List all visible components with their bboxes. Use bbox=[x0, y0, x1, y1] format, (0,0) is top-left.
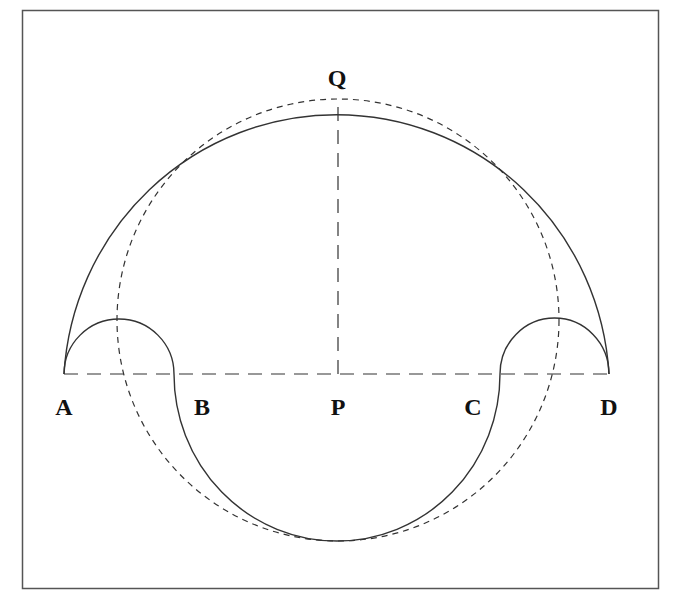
label-C: C bbox=[464, 394, 481, 420]
frame-border bbox=[23, 11, 659, 589]
label-D: D bbox=[600, 394, 617, 420]
label-A: A bbox=[55, 394, 73, 420]
label-Q: Q bbox=[328, 65, 347, 91]
outer-arc-AQD bbox=[64, 115, 609, 374]
label-B: B bbox=[194, 394, 210, 420]
label-P: P bbox=[331, 394, 346, 420]
small-arc-AB bbox=[64, 319, 174, 374]
geometry-diagram: Q A B P C D bbox=[0, 0, 673, 608]
